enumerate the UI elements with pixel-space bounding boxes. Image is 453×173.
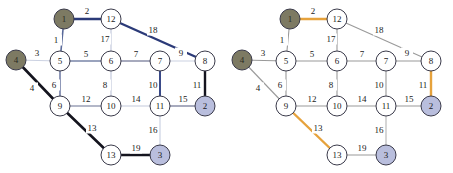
edge-weight-label: 8 xyxy=(103,80,108,90)
edge-weight-label: 10 xyxy=(375,80,385,90)
node-label: 6 xyxy=(335,56,340,66)
edge-weight-label: 14 xyxy=(132,94,142,104)
node-11[interactable]: 11 xyxy=(150,96,170,116)
figure-root: 1234567891011121314151617181911245678910… xyxy=(0,0,453,173)
node-12[interactable]: 12 xyxy=(101,9,121,29)
edge-weight-label: 9 xyxy=(179,48,184,58)
node-8[interactable]: 8 xyxy=(421,51,441,71)
edge-weight-label: 1 xyxy=(54,35,59,45)
node-8[interactable]: 8 xyxy=(195,51,215,71)
edge-weight-label: 12 xyxy=(82,94,91,104)
edge-weight-label: 9 xyxy=(405,48,410,58)
edge-weight-label: 12 xyxy=(308,94,317,104)
node-9[interactable]: 9 xyxy=(276,96,296,116)
edge-weight-label: 7 xyxy=(360,49,365,59)
node-label: 11 xyxy=(382,101,391,111)
node-3[interactable]: 3 xyxy=(376,145,396,165)
node-label: 4 xyxy=(240,55,245,65)
edge-weight-label: 13 xyxy=(314,123,324,133)
edge-weight-label: 6 xyxy=(278,80,283,90)
left-graph-panel: 1234567891011121314151617181911245678910… xyxy=(0,0,227,173)
edge-weight-label: 19 xyxy=(132,143,142,153)
edge-9-13[interactable] xyxy=(60,106,111,155)
node-5[interactable]: 5 xyxy=(50,51,70,71)
edge-9-13[interactable] xyxy=(286,106,337,155)
node-label: 3 xyxy=(158,150,163,160)
node-label: 9 xyxy=(284,101,289,111)
node-label: 12 xyxy=(333,14,342,24)
edge-weight-label: 10 xyxy=(149,80,159,90)
node-label: 11 xyxy=(156,101,165,111)
node-label: 2 xyxy=(429,101,434,111)
node-label: 1 xyxy=(288,14,293,24)
right-graph-panel: 1234567891011121314151617181911245678910… xyxy=(226,0,453,173)
edge-weight-label: 7 xyxy=(134,49,139,59)
edge-weight-label: 11 xyxy=(193,80,202,90)
node-13[interactable]: 13 xyxy=(101,145,121,165)
edge-weight-label: 6 xyxy=(52,80,57,90)
edge-weight-label: 15 xyxy=(179,94,189,104)
node-label: 1 xyxy=(62,14,67,24)
node-1[interactable]: 1 xyxy=(280,9,300,29)
node-2[interactable]: 2 xyxy=(421,96,441,116)
node-7[interactable]: 7 xyxy=(150,51,170,71)
node-7[interactable]: 7 xyxy=(376,51,396,71)
edge-weight-label: 17 xyxy=(101,34,111,44)
edge-weight-label: 1 xyxy=(280,35,285,45)
edge-weight-label: 3 xyxy=(261,48,266,58)
node-label: 8 xyxy=(429,56,434,66)
node-12[interactable]: 12 xyxy=(327,9,347,29)
node-label: 10 xyxy=(333,101,343,111)
edge-weight-label: 15 xyxy=(405,94,415,104)
edge-weight-label: 16 xyxy=(375,125,385,135)
node-4[interactable]: 4 xyxy=(232,50,252,70)
edge-weight-label: 4 xyxy=(30,83,35,93)
edge-weight-label: 19 xyxy=(358,143,368,153)
node-label: 13 xyxy=(333,150,343,160)
edge-weight-label: 11 xyxy=(419,80,428,90)
edge-weight-label: 5 xyxy=(84,49,89,59)
edge-weight-label: 14 xyxy=(358,94,368,104)
edge-weight-label: 2 xyxy=(85,6,90,16)
node-9[interactable]: 9 xyxy=(50,96,70,116)
node-label: 5 xyxy=(284,56,289,66)
edge-weight-label: 3 xyxy=(35,48,40,58)
node-10[interactable]: 10 xyxy=(101,96,121,116)
node-label: 9 xyxy=(58,101,63,111)
node-4[interactable]: 4 xyxy=(6,50,26,70)
edge-weight-label: 8 xyxy=(329,80,334,90)
edge-weight-label: 18 xyxy=(375,25,385,35)
node-label: 6 xyxy=(109,56,114,66)
node-10[interactable]: 10 xyxy=(327,96,347,116)
edge-weight-label: 4 xyxy=(256,83,261,93)
node-label: 4 xyxy=(14,55,19,65)
edge-weight-label: 16 xyxy=(149,125,159,135)
node-label: 10 xyxy=(107,101,117,111)
edge-weight-label: 5 xyxy=(310,49,315,59)
node-3[interactable]: 3 xyxy=(150,145,170,165)
node-6[interactable]: 6 xyxy=(101,51,121,71)
node-label: 7 xyxy=(158,56,163,66)
node-label: 12 xyxy=(107,14,116,24)
node-1[interactable]: 1 xyxy=(54,9,74,29)
edge-weight-label: 13 xyxy=(88,123,98,133)
node-label: 5 xyxy=(58,56,63,66)
edge-weight-label: 2 xyxy=(311,6,316,16)
node-2[interactable]: 2 xyxy=(195,96,215,116)
left-graph-panel-canvas: 1234567891011121314151617181911245678910… xyxy=(0,0,227,173)
node-label: 7 xyxy=(384,56,389,66)
node-label: 2 xyxy=(203,101,208,111)
edge-weight-label: 17 xyxy=(327,34,337,44)
right-graph-panel-canvas: 1234567891011121314151617181911245678910… xyxy=(226,0,453,173)
node-5[interactable]: 5 xyxy=(276,51,296,71)
node-11[interactable]: 11 xyxy=(376,96,396,116)
edge-weight-label: 18 xyxy=(149,25,159,35)
node-13[interactable]: 13 xyxy=(327,145,347,165)
node-label: 8 xyxy=(203,56,208,66)
node-label: 13 xyxy=(107,150,117,160)
node-label: 3 xyxy=(384,150,389,160)
node-6[interactable]: 6 xyxy=(327,51,347,71)
